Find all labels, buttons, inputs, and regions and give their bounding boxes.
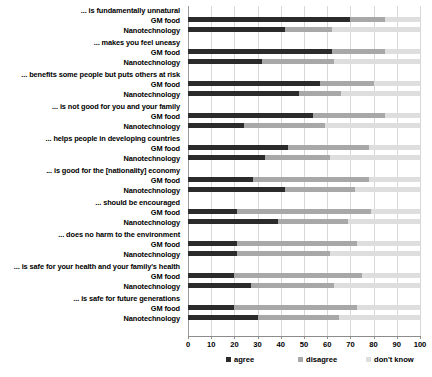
legend-swatch-icon bbox=[366, 357, 371, 362]
category-title: ... benefits some people but puts others… bbox=[21, 70, 180, 79]
stacked-bar[interactable] bbox=[188, 91, 420, 96]
bar-segment-dont-know bbox=[330, 251, 420, 256]
bar-segment-agree bbox=[188, 251, 237, 256]
stacked-bar[interactable] bbox=[188, 219, 420, 224]
series-label: Nanotechnology bbox=[124, 282, 181, 291]
series-label: GM food bbox=[151, 272, 180, 281]
bar-group bbox=[188, 262, 420, 294]
legend-swatch-icon bbox=[226, 357, 231, 362]
bar-group bbox=[188, 230, 420, 262]
bar-segment-dont-know bbox=[371, 209, 420, 214]
stacked-bar[interactable] bbox=[188, 155, 420, 160]
category-group-label: ... is fundamentally unnaturalGM foodNan… bbox=[0, 6, 184, 38]
stacked-bar[interactable] bbox=[188, 283, 420, 288]
stacked-bar[interactable] bbox=[188, 145, 420, 150]
bar-segment-dont-know bbox=[369, 177, 420, 182]
x-tick-90 bbox=[397, 336, 398, 339]
bar-segment-disagree bbox=[244, 123, 325, 128]
bar-segment-agree bbox=[188, 219, 278, 224]
bar-segment-agree bbox=[188, 27, 285, 32]
legend-item[interactable]: don't know bbox=[366, 355, 414, 364]
stacked-bar[interactable] bbox=[188, 177, 420, 182]
stacked-bar[interactable] bbox=[188, 49, 420, 54]
series-label: Nanotechnology bbox=[124, 186, 181, 195]
bar-group bbox=[188, 134, 420, 166]
series-label: Nanotechnology bbox=[124, 154, 181, 163]
series-label: Nanotechnology bbox=[124, 250, 181, 259]
x-tick-label-40: 40 bbox=[277, 340, 285, 349]
bar-group bbox=[188, 166, 420, 198]
bar-group bbox=[188, 294, 420, 326]
bar-segment-dont-know bbox=[325, 123, 420, 128]
bar-segment-agree bbox=[188, 17, 350, 22]
stacked-bar[interactable] bbox=[188, 241, 420, 246]
x-tick-label-50: 50 bbox=[300, 340, 308, 349]
bar-segment-disagree bbox=[258, 315, 339, 320]
legend-label: disagree bbox=[306, 355, 337, 364]
bar-segment-disagree bbox=[313, 113, 385, 118]
bar-segment-disagree bbox=[332, 49, 385, 54]
bar-segment-agree bbox=[188, 273, 234, 278]
bar-segment-disagree bbox=[285, 187, 355, 192]
bar-segment-disagree bbox=[262, 59, 334, 64]
bar-segment-disagree bbox=[288, 145, 369, 150]
x-tick-label-0: 0 bbox=[186, 340, 190, 349]
bar-segment-dont-know bbox=[341, 91, 420, 96]
bar-segment-dont-know bbox=[339, 315, 420, 320]
x-tick-60 bbox=[327, 336, 328, 339]
series-label: Nanotechnology bbox=[124, 314, 181, 323]
stacked-bar[interactable] bbox=[188, 81, 420, 86]
series-label: GM food bbox=[151, 240, 180, 249]
bar-segment-dont-know bbox=[374, 81, 420, 86]
bar-segment-agree bbox=[188, 123, 244, 128]
stacked-bar[interactable] bbox=[188, 305, 420, 310]
bar-segment-dont-know bbox=[385, 113, 420, 118]
category-group-label: ... is not good for you and your familyG… bbox=[0, 102, 184, 134]
x-tick-20 bbox=[234, 336, 235, 339]
bar-segment-agree bbox=[188, 91, 299, 96]
stacked-bar[interactable] bbox=[188, 113, 420, 118]
x-tick-50 bbox=[304, 336, 305, 339]
stacked-bar[interactable] bbox=[188, 123, 420, 128]
stacked-bar[interactable] bbox=[188, 187, 420, 192]
series-label: GM food bbox=[151, 208, 180, 217]
category-group-label: ... should be encouragedGM foodNanotechn… bbox=[0, 198, 184, 230]
bar-group bbox=[188, 6, 420, 38]
category-title: ... is not good for you and your family bbox=[52, 102, 180, 111]
series-label: Nanotechnology bbox=[124, 122, 181, 131]
category-group-label: ... is good for the [nationality] econom… bbox=[0, 166, 184, 198]
stacked-bar[interactable] bbox=[188, 209, 420, 214]
bar-segment-dont-know bbox=[369, 145, 420, 150]
stacked-bar[interactable] bbox=[188, 315, 420, 320]
series-label: GM food bbox=[151, 48, 180, 57]
stacked-bar[interactable] bbox=[188, 59, 420, 64]
bar-segment-agree bbox=[188, 283, 251, 288]
bar-segment-disagree bbox=[253, 177, 369, 182]
category-title: ... makes you feel uneasy bbox=[94, 38, 180, 47]
legend-label: agree bbox=[234, 355, 254, 364]
bar-segment-disagree bbox=[234, 305, 357, 310]
legend-swatch-icon bbox=[298, 357, 303, 362]
series-label: GM food bbox=[151, 176, 180, 185]
stacked-bar[interactable] bbox=[188, 17, 420, 22]
bar-segment-agree bbox=[188, 155, 265, 160]
bar-segment-agree bbox=[188, 177, 253, 182]
bar-segment-dont-know bbox=[385, 17, 420, 22]
category-title: ... is good for the [nationality] econom… bbox=[46, 166, 180, 175]
bar-segment-agree bbox=[188, 49, 332, 54]
category-group-label: ... benefits some people but puts others… bbox=[0, 70, 184, 102]
stacked-bar[interactable] bbox=[188, 27, 420, 32]
legend-item[interactable]: disagree bbox=[298, 355, 337, 364]
bar-group bbox=[188, 70, 420, 102]
bar-group bbox=[188, 102, 420, 134]
bar-segment-dont-know bbox=[357, 241, 420, 246]
bar-segment-disagree bbox=[237, 241, 358, 246]
stacked-bar[interactable] bbox=[188, 273, 420, 278]
stacked-bar[interactable] bbox=[188, 251, 420, 256]
category-group-label: ... helps people in developing countries… bbox=[0, 134, 184, 166]
category-title: ... does no harm to the environment bbox=[58, 230, 180, 239]
category-title: ... is safe for your health and your fam… bbox=[14, 262, 180, 271]
series-label: Nanotechnology bbox=[124, 90, 181, 99]
legend-item[interactable]: agree bbox=[226, 355, 254, 364]
x-tick-label-60: 60 bbox=[323, 340, 331, 349]
